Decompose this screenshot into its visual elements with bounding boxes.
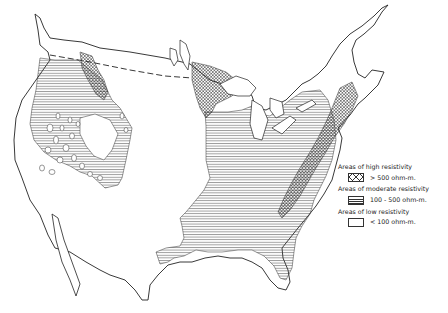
legend-value-high: > 500 ohm-m. xyxy=(370,175,416,181)
legend-heading-low: Areas of low resistivity xyxy=(338,209,448,215)
legend-value-low: < 100 ohm-m. xyxy=(370,219,416,225)
legend: Areas of high resistivity > 500 ohm-m. A… xyxy=(338,160,448,231)
legend-value-moderate: 100 - 500 ohm-m. xyxy=(370,197,427,203)
legend-row-moderate: 100 - 500 ohm-m. xyxy=(348,196,448,205)
resistivity-map xyxy=(0,0,448,313)
crosshatch-swatch-icon xyxy=(348,173,364,182)
blank-swatch-icon xyxy=(348,218,364,227)
legend-row-high: > 500 ohm-m. xyxy=(348,173,448,182)
horizontal-lines-swatch-icon xyxy=(348,196,364,205)
legend-heading-high: Areas of high resistivity xyxy=(338,164,448,170)
legend-row-low: < 100 ohm-m. xyxy=(348,218,448,227)
legend-heading-moderate: Areas of moderate resistivity xyxy=(338,186,448,192)
